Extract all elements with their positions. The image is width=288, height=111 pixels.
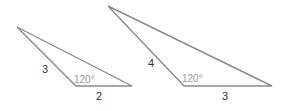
triangles-diagram: 3 120° 2 4 120° 3 [0, 0, 288, 111]
angle-label: 120° [182, 73, 203, 84]
triangle-small: 3 120° 2 [17, 27, 132, 102]
side-label-bottom: 3 [222, 90, 228, 102]
side-label-left: 3 [42, 63, 48, 75]
side-label-bottom: 2 [96, 90, 102, 102]
triangle-large: 4 120° 3 [108, 6, 272, 102]
angle-label: 120° [74, 74, 95, 85]
side-label-left: 4 [148, 57, 154, 69]
